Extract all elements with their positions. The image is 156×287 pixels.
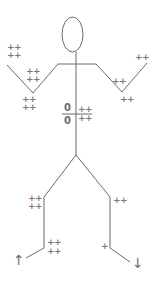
left-hand-label-bottom: ++ — [7, 51, 21, 60]
right-elbow-label: ++ — [120, 95, 134, 104]
left-ankle-label-bottom: ++ — [47, 247, 61, 256]
right-knee-label: ++ — [113, 196, 127, 205]
stick-figure-diagram: ++ ++ ++ ++ ++ ++ ++ ++ ++ 0 0 ++ ++ ++ … — [0, 0, 156, 287]
up-arrow-icon: ↑ — [13, 253, 25, 267]
left-arm-label-bottom: ++ — [26, 75, 40, 84]
down-arrow-icon: ↓ — [132, 256, 144, 270]
stick-figure-lines — [0, 0, 156, 287]
right-ankle-label: + — [101, 242, 108, 251]
torso-numerator: 0 — [64, 103, 71, 113]
head — [62, 17, 83, 52]
left-knee-label-bottom: ++ — [28, 202, 42, 211]
right-arm-label: ++ — [112, 77, 126, 86]
right-hand-label: ++ — [135, 53, 149, 62]
left-elbow-label-bottom: ++ — [22, 103, 36, 112]
torso-denominator: 0 — [64, 116, 71, 126]
torso-label-bottom: ++ — [78, 114, 92, 123]
